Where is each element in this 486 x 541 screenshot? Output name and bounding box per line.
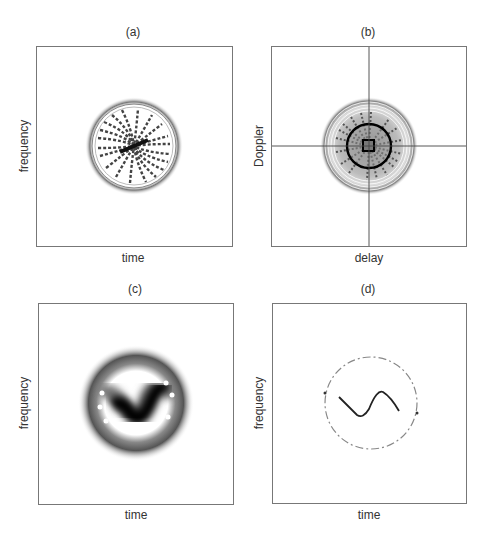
panel-c-title: (c) [105,282,165,296]
smoothed-distribution-image [39,304,234,505]
ambiguity-function-image [272,47,467,247]
panel-a-title: (a) [103,25,163,39]
reassigned-distribution-image [273,304,467,504]
panel-c-xlabel: time [96,508,176,522]
panel-d-title: (d) [338,282,398,296]
panel-d-xlabel: time [329,508,409,522]
panel-b-title: (b) [338,25,398,39]
panel-c-plot [38,303,234,505]
panel-c-ylabel: frequency [17,358,31,448]
panel-a-ylabel: frequency [17,101,31,191]
panel-d-ylabel: frequency [252,358,266,448]
panel-a-xlabel: time [93,251,173,265]
panel-b-plot [271,46,467,247]
wigner-disc-image [37,47,233,247]
panel-b-ylabel: Doppler [252,101,266,191]
panel-d-plot [272,303,467,504]
panel-a-plot [36,46,233,247]
panel-b-xlabel: delay [329,251,409,265]
